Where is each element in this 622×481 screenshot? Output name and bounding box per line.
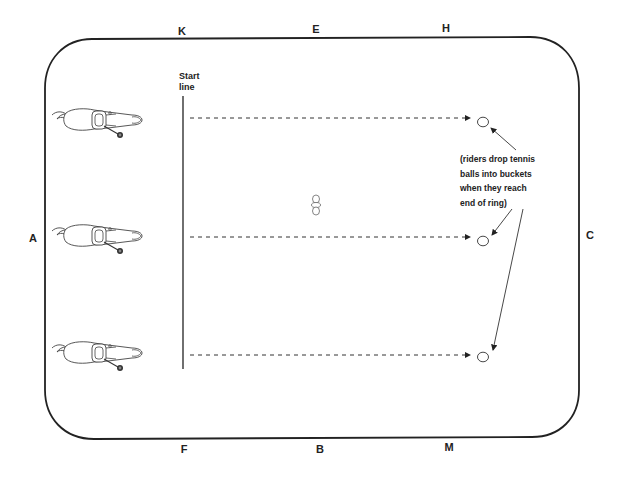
horse-rider-icon-3 [52,342,142,371]
riders [52,109,142,371]
bucket-icon-1 [478,117,489,127]
arena-diagram [0,0,622,481]
marker-k: K [178,25,186,37]
marker-e: E [312,23,319,35]
marker-a: A [29,232,37,244]
instruction-note: (riders drop tennis balls into buckets w… [460,152,544,210]
marker-c: C [586,229,594,241]
lane-arrows [190,118,470,355]
horse-rider-icon-1 [52,109,142,138]
marker-m: M [444,441,453,453]
bucket-icon-2 [478,236,489,246]
marker-b: B [316,443,324,455]
start-line-label: Start line [179,71,200,93]
marker-f: F [181,443,188,455]
marker-h: H [442,22,450,34]
horse-rider-icon-2 [52,225,142,254]
cone-icon [312,195,321,215]
bucket-icon-3 [478,352,489,362]
